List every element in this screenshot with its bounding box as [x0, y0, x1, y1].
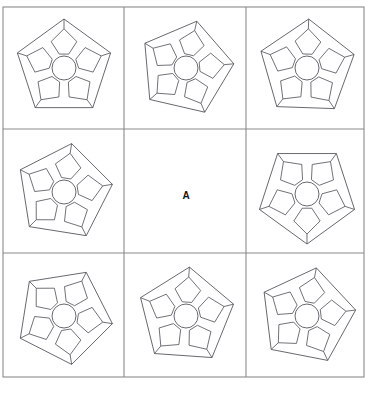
spoke-4: [29, 220, 36, 227]
spoke-3: [329, 101, 334, 109]
spoke-5: [20, 170, 29, 174]
spoke-2: [103, 322, 113, 324]
petal-4: [157, 73, 179, 94]
petal-3: [65, 202, 88, 227]
spoke-5: [145, 43, 153, 48]
spoke-1: [82, 272, 86, 281]
pentagon-flower-figure: [141, 267, 234, 357]
spoke-1: [314, 268, 316, 278]
petal-5: [36, 288, 57, 309]
spoke-4: [155, 346, 161, 354]
petal-2: [77, 175, 103, 200]
pentagon-flower-figure: [261, 19, 354, 109]
petal-1: [180, 31, 205, 56]
pentagon-flower-figure: [20, 144, 112, 236]
spoke-5: [29, 281, 36, 288]
petal-3: [184, 79, 207, 104]
petal-1: [295, 29, 321, 54]
spoke-5: [264, 292, 273, 297]
petal-4: [29, 317, 54, 340]
petal-1: [175, 277, 201, 303]
spoke-4: [20, 334, 29, 338]
petal-4: [269, 190, 295, 215]
petal-5: [153, 44, 177, 66]
petal-2: [199, 53, 224, 78]
pentagon-flower-figure: [259, 154, 354, 244]
spoke-3: [87, 100, 93, 108]
spoke-2: [101, 53, 110, 56]
petal-5: [281, 162, 303, 186]
petal-3: [294, 208, 320, 234]
petal-5: [273, 292, 297, 315]
answer-letter: A: [182, 190, 189, 201]
petal-4: [38, 76, 60, 99]
pentagon-flower-figure: [145, 21, 234, 112]
petal-1: [311, 162, 333, 186]
spoke-4: [259, 206, 269, 209]
spoke-1: [189, 267, 190, 277]
petal-5: [270, 47, 295, 71]
spoke-2: [103, 184, 113, 186]
center-circle: [174, 304, 198, 328]
petal-2: [77, 307, 103, 332]
petal-1: [65, 281, 88, 306]
spoke-2: [224, 304, 234, 306]
pentagon-flower-figure: [17, 19, 110, 108]
center-circle: [52, 56, 76, 80]
pentagon-flower-figure: [20, 272, 112, 364]
petal-1: [51, 29, 77, 54]
spoke-3: [324, 352, 328, 361]
pentagon-outline: [17, 19, 110, 108]
center-circle: [52, 304, 76, 328]
petal-3: [306, 327, 329, 352]
center-circle: [295, 56, 319, 80]
spoke-5: [17, 53, 26, 56]
spoke-5: [278, 154, 284, 162]
petal-5: [27, 48, 53, 73]
spoke-2: [345, 206, 355, 209]
petal-2: [319, 190, 345, 215]
petal-3: [68, 76, 90, 99]
petal-3: [55, 329, 80, 355]
spoke-2: [346, 310, 356, 311]
petal-4: [278, 322, 300, 343]
spoke-4: [35, 100, 41, 108]
spoke-3: [207, 349, 212, 357]
spoke-3: [82, 227, 86, 236]
petal-5: [150, 294, 175, 318]
center-circle: [295, 304, 319, 328]
petal-3: [311, 77, 333, 101]
pentagon-outline: [261, 19, 354, 109]
matrix-puzzle: A: [0, 0, 370, 394]
pentagon-outline: [259, 154, 354, 244]
spoke-1: [195, 21, 197, 30]
center-circle: [52, 180, 76, 204]
petal-4: [281, 76, 303, 99]
petal-1: [55, 153, 80, 179]
petal-2: [76, 48, 102, 73]
spoke-5: [261, 51, 270, 54]
spoke-1: [331, 154, 337, 162]
spoke-5: [141, 298, 150, 302]
spoke-4: [277, 99, 283, 107]
spoke-3: [70, 355, 72, 365]
spoke-4: [271, 343, 278, 350]
spoke-2: [224, 64, 234, 65]
petal-2: [320, 300, 346, 326]
petal-3: [189, 325, 211, 349]
petal-5: [29, 169, 54, 192]
center-circle: [295, 182, 319, 206]
spoke-2: [345, 54, 354, 57]
pentagon-flower-figure: [264, 268, 355, 361]
petal-2: [198, 297, 224, 322]
spoke-1: [70, 144, 72, 154]
petal-1: [299, 278, 324, 304]
matrix-grid-canvas: A: [0, 0, 370, 394]
spoke-3: [201, 103, 205, 112]
petal-2: [319, 48, 345, 73]
spoke-4: [150, 93, 157, 99]
petal-4: [159, 324, 181, 346]
petal-4: [36, 199, 57, 220]
center-circle: [174, 56, 198, 80]
